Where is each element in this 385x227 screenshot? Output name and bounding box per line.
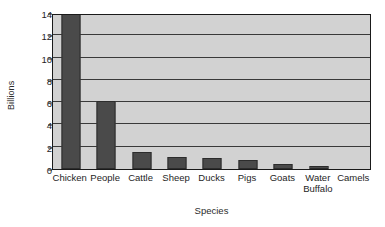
bar-slot bbox=[266, 15, 301, 169]
y-tick-label: 2 bbox=[8, 142, 52, 153]
y-tick-label: 4 bbox=[8, 120, 52, 131]
bar-chart-figure: Billions 02468101214 ChickenPeopleCattle… bbox=[0, 0, 385, 227]
y-tick-label: 14 bbox=[8, 9, 52, 20]
plot-area bbox=[52, 14, 371, 170]
x-tick-label: Camels bbox=[337, 172, 369, 183]
bar[interactable] bbox=[274, 164, 293, 169]
bar-slot bbox=[124, 15, 159, 169]
bar-slot bbox=[195, 15, 230, 169]
x-tick-label: Goats bbox=[270, 172, 295, 183]
bar-slot bbox=[53, 15, 88, 169]
x-axis-ticks: ChickenPeopleCattleSheepDucksPigsGoatsWa… bbox=[52, 172, 371, 206]
bar[interactable] bbox=[168, 157, 187, 169]
bar[interactable] bbox=[61, 14, 80, 169]
bar-slot bbox=[337, 15, 371, 169]
y-tick-label: 8 bbox=[8, 75, 52, 86]
bar[interactable] bbox=[97, 101, 116, 169]
x-tick-label: Ducks bbox=[198, 172, 224, 183]
bar[interactable] bbox=[203, 158, 222, 169]
x-tick-label: Water Buffalo bbox=[303, 172, 332, 194]
bar-slot bbox=[88, 15, 123, 169]
bar[interactable] bbox=[238, 160, 257, 169]
bar-slot bbox=[230, 15, 265, 169]
y-tick-label: 12 bbox=[8, 31, 52, 42]
x-tick-label: People bbox=[90, 172, 120, 183]
bar-slot bbox=[159, 15, 194, 169]
x-tick-label: Pigs bbox=[238, 172, 256, 183]
x-tick-label: Cattle bbox=[128, 172, 153, 183]
y-tick-label: 10 bbox=[8, 53, 52, 64]
bar-slot bbox=[301, 15, 336, 169]
y-axis-ticks: 02468101214 bbox=[0, 0, 52, 227]
y-tick-label: 0 bbox=[8, 165, 52, 176]
x-tick-label: Chicken bbox=[53, 172, 87, 183]
y-tick-label: 6 bbox=[8, 98, 52, 109]
x-tick-label: Sheep bbox=[162, 172, 189, 183]
bars-layer bbox=[53, 15, 370, 169]
bar[interactable] bbox=[309, 166, 328, 169]
x-axis-title: Species bbox=[52, 205, 371, 216]
bar[interactable] bbox=[132, 152, 151, 169]
